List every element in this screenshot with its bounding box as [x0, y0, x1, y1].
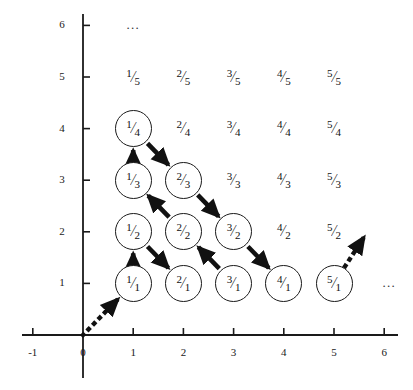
fraction-cell: 5⁄5: [317, 64, 351, 90]
plot-canvas: [0, 0, 413, 390]
fraction-cell: 5⁄3: [317, 167, 351, 193]
top-ellipsis: ...: [127, 17, 140, 33]
fraction-cell: 3⁄5: [217, 64, 251, 90]
y-tick-label-1: 1: [51, 277, 73, 288]
fraction-cell: 5⁄1: [317, 270, 351, 296]
fraction-denominator: 4: [335, 127, 341, 138]
fraction-denominator: 1: [185, 282, 191, 293]
fraction-cell: 4⁄1: [267, 270, 301, 296]
fraction-numerator: 1: [126, 119, 132, 130]
x-tick-label-1: 1: [118, 347, 148, 358]
fraction-denominator: 5: [235, 76, 241, 87]
fraction-cell: 5⁄2: [317, 219, 351, 245]
fraction-numerator: 2: [176, 68, 182, 79]
fraction-cell: 4⁄3: [267, 167, 301, 193]
fraction-cell: 1⁄3: [116, 167, 150, 193]
fraction-numerator: 5: [327, 119, 333, 130]
cantor-diagonal-figure: -10123456123456 1⁄12⁄13⁄14⁄15⁄11⁄22⁄23⁄2…: [0, 0, 413, 390]
fraction-numerator: 5: [327, 222, 333, 233]
fraction-numerator: 3: [227, 222, 233, 233]
y-tick-label-6: 6: [51, 19, 73, 30]
fraction-numerator: 3: [227, 68, 233, 79]
fraction-denominator: 2: [285, 230, 291, 241]
y-tick-label-4: 4: [51, 123, 73, 134]
enumeration-arrow: [248, 246, 269, 267]
fraction-cell: 3⁄1: [217, 270, 251, 296]
fraction-cell: 2⁄3: [166, 167, 200, 193]
y-tick-label-2: 2: [51, 226, 73, 237]
right-ellipsis: ...: [383, 275, 396, 291]
fraction-denominator: 3: [285, 179, 291, 190]
fraction-denominator: 2: [335, 230, 341, 241]
fraction-numerator: 3: [227, 119, 233, 130]
fraction-numerator: 1: [126, 274, 132, 285]
fraction-denominator: 5: [335, 76, 341, 87]
fraction-numerator: 1: [126, 222, 132, 233]
fraction-cell: 1⁄1: [116, 270, 150, 296]
fraction-denominator: 3: [235, 179, 241, 190]
fraction-cell: 2⁄5: [166, 64, 200, 90]
fraction-numerator: 5: [327, 171, 333, 182]
x-tick-label-5: 5: [319, 347, 349, 358]
fraction-denominator: 3: [185, 179, 191, 190]
fraction-denominator: 3: [335, 179, 341, 190]
fraction-cell: 4⁄5: [267, 64, 301, 90]
fraction-denominator: 5: [185, 76, 191, 87]
fraction-denominator: 2: [185, 230, 191, 241]
fraction-numerator: 2: [176, 171, 182, 182]
fraction-numerator: 1: [126, 171, 132, 182]
fraction-cell: 1⁄2: [116, 219, 150, 245]
fraction-cell: 4⁄4: [267, 116, 301, 142]
fraction-denominator: 4: [235, 127, 241, 138]
y-tick-label-3: 3: [51, 174, 73, 185]
entry-arrow: [83, 299, 118, 335]
fraction-denominator: 1: [135, 282, 141, 293]
fraction-cell: 3⁄3: [217, 167, 251, 193]
fraction-cell: 5⁄4: [317, 116, 351, 142]
enumeration-arrow: [147, 246, 168, 267]
fraction-cell: 4⁄2: [267, 219, 301, 245]
fraction-denominator: 5: [285, 76, 291, 87]
fraction-cell: 3⁄4: [217, 116, 251, 142]
fraction-denominator: 3: [135, 179, 141, 190]
fraction-numerator: 5: [327, 68, 333, 79]
fraction-denominator: 4: [135, 127, 141, 138]
fraction-numerator: 2: [176, 274, 182, 285]
fraction-denominator: 2: [235, 230, 241, 241]
fraction-numerator: 3: [227, 171, 233, 182]
fraction-numerator: 1: [126, 68, 132, 79]
fraction-denominator: 4: [285, 127, 291, 138]
fraction-denominator: 5: [135, 76, 141, 87]
fraction-cell: 1⁄4: [116, 116, 150, 142]
path-arrows-layer: [133, 143, 269, 268]
fraction-denominator: 1: [285, 282, 291, 293]
fraction-numerator: 2: [176, 119, 182, 130]
x-tick-label-2: 2: [168, 347, 198, 358]
x-tick-label-0: 0: [68, 347, 98, 358]
fraction-denominator: 1: [335, 282, 341, 293]
fraction-cell: 2⁄2: [166, 219, 200, 245]
fraction-denominator: 4: [185, 127, 191, 138]
y-axis-ticks: [83, 25, 90, 283]
enumeration-arrow: [148, 196, 169, 217]
fraction-cell: 2⁄4: [166, 116, 200, 142]
fraction-denominator: 2: [135, 230, 141, 241]
x-tick-label-neg1: -1: [18, 347, 48, 358]
fraction-numerator: 2: [176, 222, 182, 233]
fraction-cell: 3⁄2: [217, 219, 251, 245]
y-tick-label-5: 5: [51, 71, 73, 82]
fraction-numerator: 3: [227, 274, 233, 285]
x-tick-label-4: 4: [269, 347, 299, 358]
fraction-numerator: 5: [327, 274, 333, 285]
fraction-cell: 1⁄5: [116, 64, 150, 90]
enumeration-arrow: [198, 195, 219, 216]
enumeration-arrow: [198, 247, 219, 268]
fraction-denominator: 1: [235, 282, 241, 293]
fraction-cell: 2⁄1: [166, 270, 200, 296]
x-tick-label-3: 3: [219, 347, 249, 358]
x-tick-label-6: 6: [369, 347, 399, 358]
enumeration-arrow: [147, 143, 168, 164]
